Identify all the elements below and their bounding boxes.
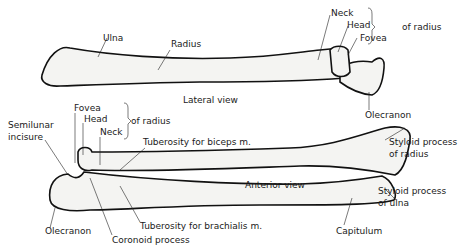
label-coronoid-process: Coronoid process: [112, 235, 190, 245]
label-lateral-ulna: Ulna: [103, 33, 123, 43]
anterior-ulna: [50, 172, 396, 211]
label-styloid-radius-2: of radius: [389, 149, 428, 159]
label-lateral-olecranon: Olecranon: [365, 110, 411, 120]
label-styloid-ulna-2: of ulna: [378, 198, 409, 208]
label-lateral-head: Head: [347, 20, 371, 30]
label-lateral-fovea: Fovea: [360, 33, 387, 43]
label-styloid-radius-1: Styloid process: [389, 137, 457, 147]
label-lateral-radius: Radius: [171, 39, 201, 49]
label-incisure: incisure: [8, 132, 43, 142]
lateral-radius-head: [330, 46, 350, 76]
label-lateral-of-radius: of radius: [402, 22, 441, 32]
lateral-radius-shaft: [42, 47, 349, 86]
label-capitulum: Capitulum: [336, 226, 382, 236]
label-lateral-neck: Neck: [331, 8, 353, 18]
caption-lateral-view: Lateral view: [183, 95, 238, 105]
label-anterior-of-radius: of radius: [131, 116, 170, 126]
label-tuberosity-biceps: Tuberosity for biceps m.: [143, 137, 251, 147]
label-semilunar: Semilunar: [8, 120, 54, 130]
label-anterior-head: Head: [84, 114, 108, 124]
label-anterior-neck: Neck: [100, 127, 122, 137]
label-anterior-fovea: Fovea: [74, 103, 101, 113]
label-styloid-ulna-1: Styloid process: [378, 186, 446, 196]
caption-anterior-view: Anterior view: [245, 180, 305, 190]
label-anterior-olecranon: Olecranon: [45, 226, 91, 236]
bone-illustration: [0, 0, 463, 249]
label-tuberosity-brachialis: Tuberosity for brachialis m.: [140, 221, 262, 231]
